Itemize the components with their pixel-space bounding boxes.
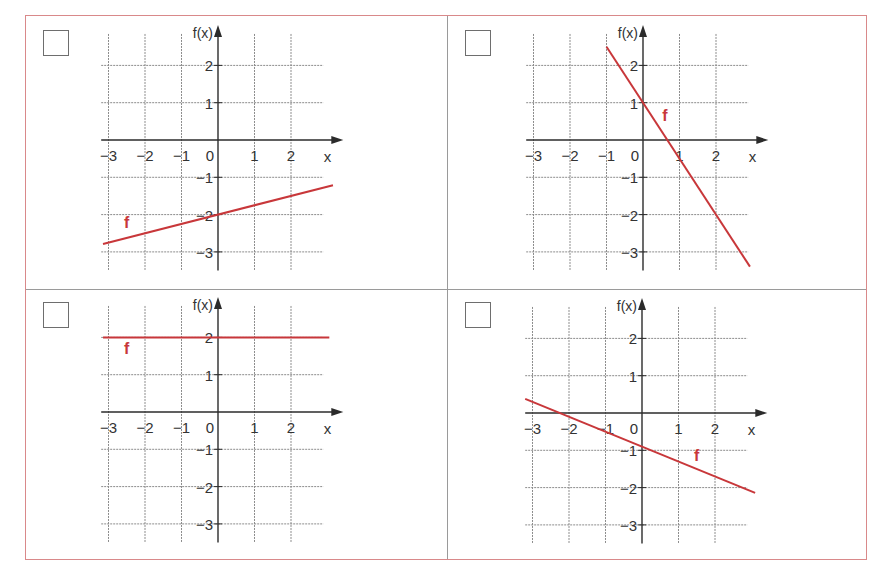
y-tick-label: −2 — [621, 207, 638, 224]
x-axis-arrow-icon — [331, 408, 343, 416]
x-axis-label: x — [324, 420, 332, 437]
y-axis-label: f(x) — [617, 298, 637, 314]
y-axis-arrow-icon — [214, 297, 222, 309]
y-axis-label: f(x) — [193, 297, 213, 313]
x-axis-label: x — [748, 421, 756, 438]
x-tick-label: −2 — [561, 147, 578, 164]
function-label: f — [662, 107, 668, 124]
x-tick-label: 2 — [287, 419, 295, 436]
y-tick-label: 1 — [630, 95, 638, 112]
y-axis-label: f(x) — [193, 25, 213, 41]
x-axis-label: x — [749, 148, 757, 165]
y-tick-label: −3 — [196, 516, 213, 533]
x-tick-label: −2 — [136, 147, 153, 164]
x-tick-label: 0 — [630, 420, 638, 437]
y-tick-label: 2 — [629, 330, 637, 347]
y-axis-label: f(x) — [618, 25, 638, 41]
y-tick-label: 2 — [630, 57, 638, 74]
y-tick-label: −1 — [620, 442, 637, 459]
x-tick-label: −3 — [100, 419, 117, 436]
y-axis-arrow-icon — [639, 25, 647, 37]
x-tick-label: 1 — [674, 420, 682, 437]
y-tick-label: −1 — [621, 169, 638, 186]
graph-bottom-right: −3−2−1012x21−1−2−3f(x)f — [524, 298, 767, 544]
y-tick-label: 1 — [629, 368, 637, 385]
y-tick-label: 1 — [205, 367, 213, 384]
y-tick-label: −2 — [620, 480, 637, 497]
x-tick-label: 2 — [287, 147, 295, 164]
x-tick-label: −2 — [560, 420, 577, 437]
x-tick-label: 0 — [631, 147, 639, 164]
y-tick-label: −3 — [196, 244, 213, 261]
x-tick-label: 0 — [206, 419, 214, 436]
function-graphs: −3−2−1012x21−1−2−3f(x)f −3−2−1012x21−1−2… — [0, 0, 883, 573]
x-tick-label: 0 — [206, 147, 214, 164]
y-tick-label: −1 — [196, 441, 213, 458]
x-tick-label: 1 — [250, 147, 258, 164]
x-axis-label: x — [324, 148, 332, 165]
graph-bottom-left: −3−2−1012x21−1−2−3f(x)f — [100, 297, 343, 543]
y-axis-arrow-icon — [638, 298, 646, 310]
x-tick-label: −1 — [173, 147, 190, 164]
function-label: f — [694, 447, 700, 464]
graph-top-right: −3−2−1012x21−1−2−3f(x)f — [525, 25, 768, 271]
function-label: f — [124, 214, 130, 231]
x-tick-label: −1 — [598, 147, 615, 164]
function-label: f — [124, 340, 130, 357]
x-axis-arrow-icon — [755, 409, 767, 417]
x-tick-label: −3 — [524, 420, 541, 437]
x-tick-label: 2 — [712, 147, 720, 164]
y-tick-label: −3 — [621, 244, 638, 261]
x-tick-label: −1 — [173, 419, 190, 436]
graph-top-left: −3−2−1012x21−1−2−3f(x)f — [100, 25, 343, 271]
x-tick-label: −2 — [136, 419, 153, 436]
x-tick-label: −3 — [525, 147, 542, 164]
x-tick-label: −3 — [100, 147, 117, 164]
y-tick-label: 2 — [205, 57, 213, 74]
x-axis-arrow-icon — [331, 136, 343, 144]
y-tick-label: −3 — [620, 517, 637, 534]
x-tick-label: 2 — [711, 420, 719, 437]
function-line — [607, 47, 750, 267]
y-tick-label: −1 — [196, 169, 213, 186]
y-axis-arrow-icon — [214, 25, 222, 37]
x-axis-arrow-icon — [756, 136, 768, 144]
y-tick-label: −2 — [196, 207, 213, 224]
y-tick-label: 1 — [205, 95, 213, 112]
x-tick-label: 1 — [250, 419, 258, 436]
y-tick-label: −2 — [196, 479, 213, 496]
